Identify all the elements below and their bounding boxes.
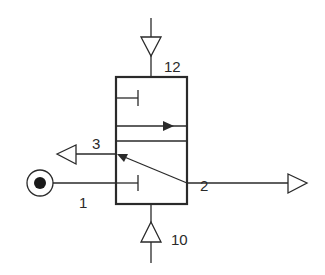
- pilot-10: [141, 204, 161, 263]
- outlet-triangle-icon: [288, 174, 307, 193]
- pilot-12: [141, 18, 161, 77]
- label-port-10: 10: [171, 231, 188, 248]
- pilot-triangle-up-icon: [141, 222, 161, 242]
- lower-position: [116, 154, 187, 191]
- upper-position: [116, 90, 187, 131]
- valve-diagram: 12 10 3 2 1: [0, 0, 325, 275]
- port-1-supply: [27, 170, 116, 196]
- label-port-1: 1: [79, 194, 87, 211]
- label-port-2: 2: [200, 177, 208, 194]
- label-port-12: 12: [164, 58, 181, 75]
- label-port-3: 3: [92, 135, 100, 152]
- exhaust-triangle-icon: [57, 145, 76, 164]
- port-3-exhaust: [57, 145, 116, 164]
- flow-arrowhead-icon: [163, 121, 174, 131]
- pilot-triangle-down-icon: [141, 37, 161, 56]
